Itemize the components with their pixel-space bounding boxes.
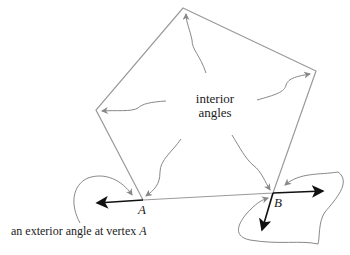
arrow-to-b (232, 135, 270, 190)
arrow-to-a (146, 139, 181, 196)
exterior-arc-b-top (285, 172, 338, 185)
exterior-angle-caption: an exterior angle at vertex A (11, 224, 147, 238)
exterior-arc-b-loop (238, 172, 343, 244)
interior-angles-label: interior angles (180, 92, 250, 120)
arrow-right (257, 74, 310, 100)
ray-b-horizontal (273, 191, 323, 193)
caption-vertex: A (139, 224, 146, 238)
ray-a (97, 200, 143, 203)
caption-text: an exterior angle at vertex (11, 224, 139, 238)
vertex-b-label: B (274, 196, 282, 210)
pentagon-diagram: interior angles A B an exterior angle at… (0, 0, 350, 255)
interior-label-line1: interior (180, 92, 250, 106)
vertex-a-label: A (138, 203, 146, 217)
diagram-svg (0, 0, 350, 255)
exterior-arc-a (74, 176, 132, 223)
arrow-left (102, 101, 166, 111)
interior-label-line2: angles (180, 106, 250, 120)
arrow-top (186, 14, 206, 73)
